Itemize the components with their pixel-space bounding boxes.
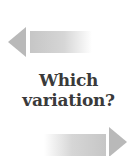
arrow-left-icon xyxy=(8,27,26,57)
question-line-1: Which xyxy=(0,70,137,90)
arrow-right-icon xyxy=(109,127,127,156)
arrow-left-bar xyxy=(30,31,92,53)
question-line-2: variation? xyxy=(0,90,137,110)
question-heading: Which variation? xyxy=(0,70,137,110)
arrow-right-bar xyxy=(44,134,106,156)
